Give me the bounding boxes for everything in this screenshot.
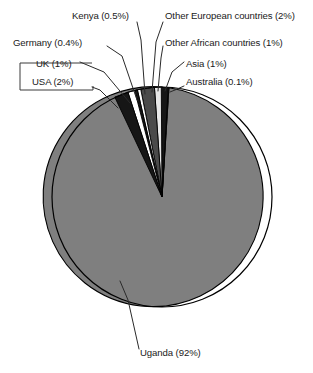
pie-slices [43,87,272,307]
pie-chart-canvas [0,0,313,373]
slice-label-other-african-countries: Other African countries (1%) [165,37,283,48]
slice-label-uganda: Uganda (92%) [140,347,201,358]
slice-label-uk: UK (1%) [36,58,72,69]
leader-line-kenya [137,22,145,94]
leader-line-other-african [158,46,163,91]
slice-label-australia: Australia (0.1%) [186,76,253,87]
slice-label-asia: Asia (1%) [186,58,227,69]
slice-label-kenya: Kenya (0.5%) [72,10,129,21]
slice-label-germany: Germany (0.4%) [13,37,82,48]
slice-label-other-european-countries: Other European countries (2%) [165,10,295,21]
slice-label-usa: USA (2%) [32,76,73,87]
pie-chart-figure: Kenya (0.5%) Germany (0.4%) UK (1%) USA … [0,0,313,373]
